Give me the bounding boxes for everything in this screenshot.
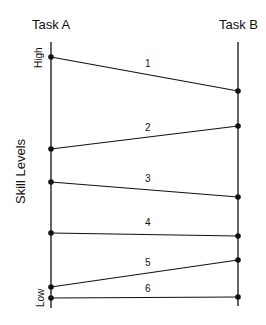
link-4-task-b-dot — [235, 233, 241, 239]
skill-levels-diagram: Task A Task B High Low Skill Levels 1234… — [0, 0, 266, 325]
skill-levels-axis-title: Skill Levels — [13, 138, 28, 204]
link-6-task-b-dot — [235, 294, 241, 300]
link-3-task-b-dot — [235, 194, 241, 200]
link-2-task-a-dot — [48, 146, 54, 152]
link-label-4: 4 — [145, 217, 151, 228]
link-label-6: 6 — [145, 283, 151, 294]
link-label-1: 1 — [145, 58, 151, 69]
link-line-6 — [51, 297, 238, 298]
low-label: Low — [35, 288, 46, 307]
link-label-5: 5 — [145, 257, 151, 268]
task-a-title: Task A — [32, 17, 71, 32]
link-1-task-a-dot — [48, 54, 54, 60]
high-label: High — [33, 47, 44, 68]
link-3-task-a-dot — [48, 179, 54, 185]
link-5-task-b-dot — [235, 257, 241, 263]
link-5-task-a-dot — [48, 284, 54, 290]
link-label-3: 3 — [145, 173, 151, 184]
link-label-2: 2 — [145, 122, 151, 133]
link-line-3 — [51, 182, 238, 197]
link-2-task-b-dot — [235, 123, 241, 129]
link-4-task-a-dot — [48, 230, 54, 236]
task-b-title: Task B — [219, 17, 258, 32]
link-1-task-b-dot — [235, 88, 241, 94]
link-line-4 — [51, 233, 238, 236]
link-6-task-a-dot — [48, 295, 54, 301]
links-group: 123456 — [48, 54, 241, 301]
